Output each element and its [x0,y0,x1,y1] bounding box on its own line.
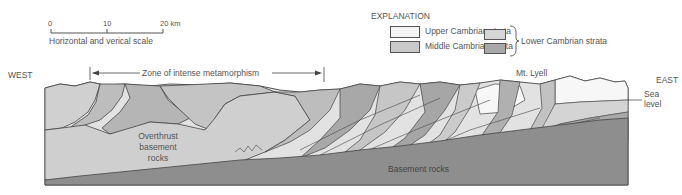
zone-label: Zone of intense metamorphism [140,68,261,78]
west-label: WEST [8,70,33,80]
cross-section [0,0,682,195]
basement-label: Basement rocks [388,164,449,174]
east-label: EAST [656,75,678,85]
peak-label: Mt. Lyell [516,68,547,78]
overthrust-label: Overthrust basement rocks [133,131,183,164]
sea-level-label: Sea level [644,89,661,109]
